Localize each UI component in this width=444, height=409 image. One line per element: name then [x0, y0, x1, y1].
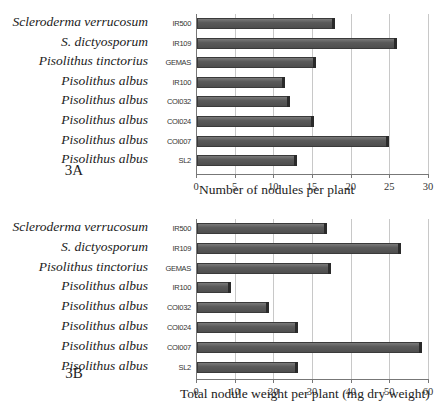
bar-ir100 — [197, 77, 283, 88]
plot-area: 051015202530IR500IR109GEMASIR100COI032CO… — [196, 14, 428, 174]
bar-ir109 — [197, 243, 399, 254]
species-label: Pisolithus tinctorius — [0, 51, 148, 71]
panel-label: 3B — [0, 365, 148, 382]
bar-ir500 — [197, 223, 325, 234]
species-label: Pisolithus albus — [0, 296, 148, 316]
bar-coi007 — [197, 342, 420, 353]
bar-sl2 — [197, 155, 295, 166]
species-label: Scleroderma verrucosum — [0, 217, 148, 237]
species-label: Pisolithus tinctorius — [0, 257, 148, 277]
species-label: Pisolithus albus — [0, 71, 148, 91]
isolate-label: COI032 — [167, 303, 191, 312]
chart-panel-3b: Scleroderma verrucosumS. dictyosporumPis… — [0, 205, 444, 409]
species-label: Pisolithus albus — [0, 276, 148, 296]
isolate-label: COI032 — [167, 97, 191, 106]
x-tick — [428, 174, 429, 178]
isolate-label: IR100 — [172, 78, 191, 87]
isolate-label: IR100 — [172, 283, 191, 292]
bar-gemas — [197, 263, 329, 274]
isolate-label: IR500 — [172, 19, 191, 28]
species-label: Pisolithus albus — [0, 336, 148, 356]
bar-sl2 — [197, 362, 296, 373]
x-axis-label: Number of nodules per plant — [199, 182, 354, 198]
isolate-label: IR109 — [172, 39, 191, 48]
bar-coi032 — [197, 96, 288, 107]
isolate-label: GEMAS — [165, 58, 191, 67]
bar-ir100 — [197, 282, 229, 293]
x-axis — [196, 174, 428, 175]
isolate-label: SL2 — [179, 156, 191, 165]
bar-coi024 — [197, 322, 296, 333]
bar-coi032 — [197, 302, 267, 313]
isolate-label: COI024 — [167, 323, 191, 332]
x-tick-label: 25 — [384, 181, 395, 192]
species-label: Pisolithus albus — [0, 316, 148, 336]
x-tick — [428, 379, 429, 383]
species-label: Pisolithus albus — [0, 110, 148, 130]
bar-coi024 — [197, 116, 312, 127]
isolate-label: COI007 — [167, 343, 191, 352]
isolate-label: GEMAS — [165, 264, 191, 273]
panel-label: 3A — [0, 162, 148, 179]
species-label: Scleroderma verrucosum — [0, 12, 148, 32]
plot-area: 0102030405060IR500IR109GEMASIR100COI032C… — [196, 219, 428, 379]
species-label: S. dictyosporum — [0, 32, 148, 52]
x-tick-label: 30 — [423, 181, 434, 192]
x-axis — [196, 379, 428, 380]
isolate-label: COI007 — [167, 137, 191, 146]
gridline — [428, 14, 429, 174]
bar-coi007 — [197, 136, 387, 147]
isolate-label: IR109 — [172, 244, 191, 253]
bar-ir500 — [197, 18, 333, 29]
isolate-label: SL2 — [179, 363, 191, 372]
bar-gemas — [197, 57, 314, 68]
x-tick-label: 0 — [193, 181, 198, 192]
species-label: S. dictyosporum — [0, 237, 148, 257]
x-axis-label: Total nodule weight per plant (mg dry we… — [180, 386, 430, 402]
bar-ir109 — [197, 38, 395, 49]
isolate-label: IR500 — [172, 224, 191, 233]
species-label: Pisolithus albus — [0, 90, 148, 110]
gridline — [428, 219, 429, 379]
species-label: Pisolithus albus — [0, 130, 148, 150]
chart-panel-3a: Scleroderma verrucosumS. dictyosporumPis… — [0, 0, 444, 205]
isolate-label: COI024 — [167, 117, 191, 126]
